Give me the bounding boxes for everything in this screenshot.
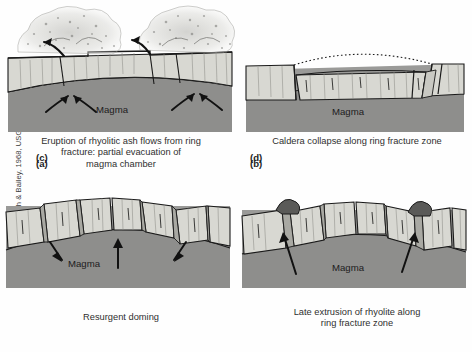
rhyolite-dome-right — [408, 201, 432, 216]
ash-cloud-left — [18, 6, 121, 54]
ash-cloud-right — [139, 6, 235, 53]
panel-b-artwork — [236, 0, 472, 176]
rhyolite-dome-left — [276, 199, 300, 214]
panel-d-caption: Late extrusion of rhyolite along ring fr… — [254, 307, 460, 330]
panel-c-label: (c) — [36, 152, 48, 163]
panel-a-caption: Eruption of rhyolitic ash flows from rin… — [18, 136, 224, 170]
panel-a: Magma Eruption of rhyolitic ash flows fr… — [0, 0, 236, 176]
panel-b: Magma Caldera collapse along ring fractu… — [236, 0, 472, 176]
panel-c-artwork — [0, 176, 236, 352]
panel-d: Magma Late extrusion of rhyolite along r… — [236, 176, 472, 352]
caldera-formation-figure: Modified from Smith & Bailey, 1968, USGS — [0, 0, 472, 352]
magma-label-c: Magma — [68, 258, 100, 269]
panel-c-caption: Resurgent doming — [18, 312, 224, 323]
former-surface-dotted-line — [294, 54, 432, 65]
panel-b-caption: Caldera collapse along ring fracture zon… — [254, 136, 460, 147]
panel-c: Magma Resurgent doming — [0, 176, 236, 352]
magma-label-a: Magma — [96, 104, 128, 115]
magma-label-d: Magma — [332, 262, 364, 273]
magma-label-b: Magma — [332, 106, 364, 117]
panel-d-label: (d) — [250, 152, 262, 163]
